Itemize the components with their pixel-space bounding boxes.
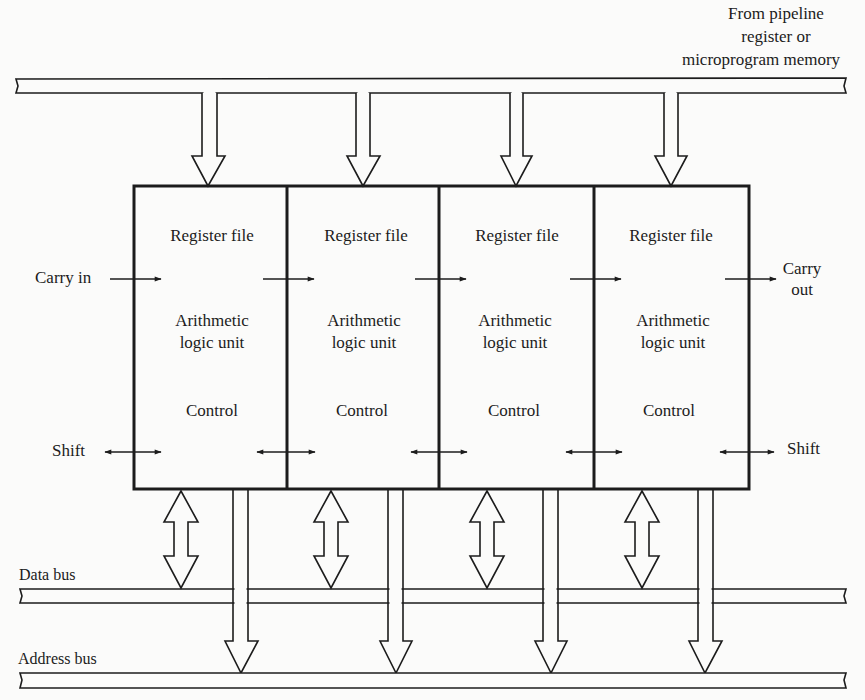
alu-label-line-1: Arithmetic	[175, 311, 249, 331]
register-file-label: Register file	[475, 226, 559, 246]
register-file-label: Register file	[170, 226, 254, 246]
control-label: Control	[336, 401, 388, 421]
alu-label-line-2: logic unit	[332, 333, 397, 353]
carry-in-label: Carry in	[35, 268, 91, 288]
control-label: Control	[643, 401, 695, 421]
control-arrow-3	[501, 93, 532, 186]
alu-label-line-1: Arithmetic	[636, 311, 710, 331]
control-input-arrows	[192, 93, 687, 186]
register-file-label: Register file	[629, 226, 713, 246]
bit-slice-diagram	[0, 0, 865, 700]
microprogram-bus	[16, 78, 846, 93]
address-bus-label: Address bus	[18, 649, 97, 669]
carry-out-label-line-2: out	[791, 280, 813, 300]
shift-left-label: Shift	[52, 441, 85, 461]
shift-right-label: Shift	[787, 439, 820, 459]
data-bus-label: Data bus	[19, 565, 75, 585]
control-label: Control	[186, 401, 238, 421]
source-label-line-1: From pipeline	[728, 4, 824, 24]
control-arrow-1	[192, 93, 225, 186]
data-arrow-1	[164, 491, 198, 588]
source-label-line-3: microprogram memory	[682, 50, 840, 70]
alu-label-line-1: Arithmetic	[478, 311, 552, 331]
data-arrow-4	[625, 491, 659, 588]
carry-out-label-line-1: Carry	[783, 259, 822, 279]
data-bus	[20, 589, 846, 603]
register-file-label: Register file	[324, 226, 408, 246]
alu-label-line-2: logic unit	[180, 333, 245, 353]
data-arrow-3	[470, 491, 504, 588]
control-arrow-4	[655, 93, 687, 186]
source-label-line-2: register or	[741, 27, 810, 47]
control-label: Control	[488, 401, 540, 421]
control-arrow-2	[347, 93, 380, 186]
alu-label-line-2: logic unit	[641, 333, 706, 353]
alu-label-line-1: Arithmetic	[327, 311, 401, 331]
data-arrow-2	[314, 491, 348, 588]
address-bus	[20, 673, 846, 688]
alu-label-line-2: logic unit	[483, 333, 548, 353]
